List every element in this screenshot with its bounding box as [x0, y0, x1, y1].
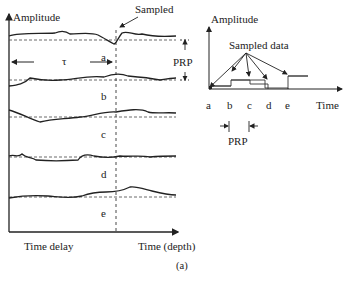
trace-baselines — [9, 40, 176, 197]
sampled-label: Sampled — [135, 4, 174, 15]
x-label-time-delay: Time delay — [24, 241, 73, 252]
trace-label-a: a — [101, 52, 106, 63]
right-y-axis-label: Amplitude — [211, 14, 258, 25]
left-axes — [9, 14, 178, 232]
right-axes — [209, 27, 342, 89]
tick-e: e — [285, 100, 290, 111]
tick-c: c — [247, 100, 252, 111]
left-y-axis-label: Amplitude — [13, 12, 60, 23]
tau-label: τ — [62, 56, 66, 67]
sampled-staircase — [209, 76, 308, 89]
sampled-data-arrows — [210, 53, 287, 87]
figure-caption: (a) — [176, 261, 188, 272]
right-prp-label: PRP — [228, 136, 248, 147]
tick-b: b — [227, 100, 233, 111]
trace-e — [9, 187, 176, 198]
trace-label-c: c — [101, 129, 106, 140]
traces — [9, 31, 176, 198]
trace-label-e: e — [101, 208, 106, 219]
trace-label-d: d — [101, 169, 107, 180]
x-label-time-depth: Time (depth) — [138, 241, 195, 252]
tick-d: d — [266, 100, 272, 111]
sampled-data-label: Sampled data — [229, 40, 289, 51]
left-prp-label: PRP — [173, 57, 193, 68]
tick-a: a — [206, 100, 211, 111]
trace-c — [9, 110, 176, 122]
trace-a — [9, 31, 176, 44]
right-x-axis-label: Time — [316, 100, 339, 111]
trace-label-b: b — [101, 91, 107, 102]
